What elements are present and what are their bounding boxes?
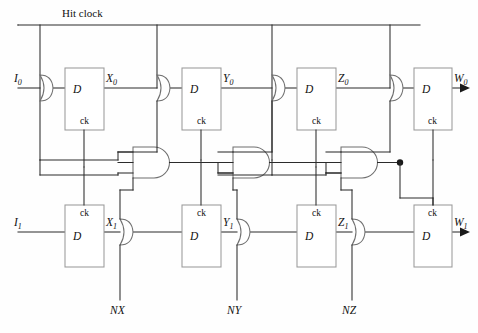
svg-text:Z0: Z0: [338, 72, 348, 87]
node-label-x1: X1: [105, 216, 117, 231]
node-label-y1: Y1: [223, 216, 233, 231]
flipflop-z1: ck D: [297, 205, 336, 267]
or-gate-i0: [40, 75, 53, 101]
svg-text:X1: X1: [105, 216, 117, 231]
or-gate-z0: [390, 75, 403, 101]
or-gate-y1: [237, 219, 250, 245]
flipflop-y1: ck D: [182, 205, 221, 267]
ff-w0-d-label: D: [421, 83, 431, 95]
or-gate-x0: [157, 75, 170, 101]
hit-clock-label: Hit clock: [62, 7, 103, 19]
ff-w1-ck-label: ck: [428, 208, 437, 218]
ff-w1-d-label: D: [421, 230, 431, 242]
or-gate-y0: [272, 75, 285, 101]
flipflop-x0: D ck: [65, 68, 104, 130]
flipflop-y0: D ck: [182, 68, 221, 130]
flipflop-z0: D ck: [297, 68, 336, 130]
node-label-x0: X0: [105, 72, 117, 87]
node-label-y0: Y0: [223, 72, 233, 87]
svg-text:Y1: Y1: [223, 216, 233, 231]
ff-z1-d-label: D: [304, 230, 314, 242]
ff-z0-d-label: D: [304, 83, 314, 95]
svg-text:X0: X0: [105, 72, 117, 87]
ff-z0-ck-label: ck: [312, 116, 321, 126]
ff-w0-ck-label: ck: [428, 116, 437, 126]
control-label-nz: NZ: [341, 304, 357, 316]
svg-text:I0: I0: [13, 72, 22, 87]
node-label-z0: Z0: [338, 72, 348, 87]
ff-y1-ck-label: ck: [197, 208, 206, 218]
input-label-i0: I0: [13, 72, 22, 87]
flipflop-w1: ck D: [414, 205, 452, 267]
control-label-nx: NX: [109, 304, 126, 316]
ff-z1-ck-label: ck: [312, 208, 321, 218]
ff-y1-d-label: D: [189, 230, 199, 242]
flipflop-x1: ck D: [65, 205, 104, 267]
svg-text:Y0: Y0: [223, 72, 233, 87]
ff-x1-d-label: D: [72, 230, 82, 242]
circuit-diagram-canvas: D ck D ck D ck D ck ck D ck D ck D ck D: [0, 0, 478, 333]
or-gate-x1: [120, 219, 133, 245]
input-label-i1: I1: [13, 216, 22, 231]
or-gate-z1: [352, 219, 365, 245]
ff-x0-ck-label: ck: [80, 116, 89, 126]
flipflop-w0: D ck: [414, 68, 452, 130]
svg-text:Z1: Z1: [338, 216, 348, 231]
node-label-z1: Z1: [338, 216, 348, 231]
svg-text:I1: I1: [13, 216, 22, 231]
ff-y0-d-label: D: [189, 83, 199, 95]
control-label-ny: NY: [226, 304, 243, 316]
ff-x1-ck-label: ck: [80, 208, 89, 218]
ff-x0-d-label: D: [72, 83, 82, 95]
ff-y0-ck-label: ck: [197, 116, 206, 126]
